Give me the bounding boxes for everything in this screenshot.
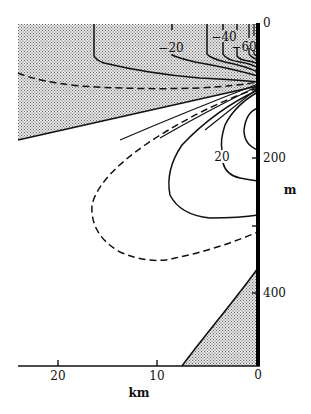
y-tick-label-400: 400 xyxy=(263,286,286,300)
contour-label-20: 20 xyxy=(214,150,229,164)
x-tick-label-0: 0 xyxy=(254,368,262,382)
contour-diagram: −20 −40 −60 20 0 200 400 m 20 10 0 km xyxy=(0,0,311,414)
x-axis-title: km xyxy=(128,386,149,400)
contour-pos-20 xyxy=(221,92,258,181)
contour-label-neg60: −60 xyxy=(231,40,256,54)
y-tick-label-200: 200 xyxy=(263,151,286,165)
contour-pos-30 xyxy=(244,108,258,150)
x-tick-label-20: 20 xyxy=(50,369,65,383)
y-axis-title: m xyxy=(284,183,297,197)
contour-label-neg20: −20 xyxy=(158,41,183,55)
x-tick-label-10: 10 xyxy=(149,369,164,383)
y-tick-label-0: 0 xyxy=(263,16,271,30)
